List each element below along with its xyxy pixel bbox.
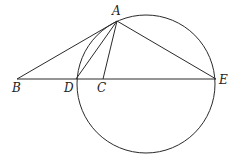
- geometry-diagram: A B D C E: [0, 0, 237, 162]
- segment-AE: [117, 21, 216, 79]
- segment-AC: [103, 21, 117, 79]
- label-B: B: [11, 81, 21, 95]
- label-E: E: [218, 73, 228, 87]
- label-D: D: [63, 81, 74, 95]
- label-A: A: [111, 4, 121, 18]
- label-C: C: [97, 81, 106, 95]
- segment-BA: [17, 21, 117, 79]
- segment-AD: [76, 21, 117, 79]
